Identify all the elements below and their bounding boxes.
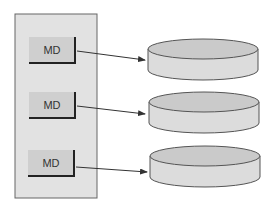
diagram: MD MD MD [0,0,274,207]
disk [149,92,259,133]
md-node: MD [29,92,75,118]
md-label: MD [43,99,60,111]
md-label: MD [43,44,60,56]
disk [150,146,260,187]
md-node: MD [29,37,75,63]
md-node: MD [28,150,74,176]
disk [148,39,258,80]
md-label: MD [42,157,59,169]
